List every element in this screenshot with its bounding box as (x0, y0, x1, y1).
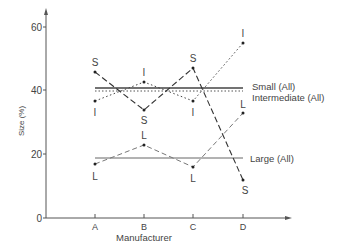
x-axis-label: Manufacturer (116, 232, 172, 243)
chart: 0 20 40 60 A B C D Manufacturer Size (%)… (0, 0, 345, 252)
svg-text:60: 60 (31, 22, 43, 33)
series-small (95, 68, 243, 180)
svg-text:L: L (141, 130, 147, 141)
svg-text:S: S (242, 185, 249, 196)
svg-text:Small (All): Small (All) (252, 81, 295, 92)
svg-text:20: 20 (31, 149, 43, 160)
svg-text:S: S (141, 115, 148, 126)
svg-text:C: C (190, 222, 197, 232)
svg-text:Intermediate (All): Intermediate (All) (252, 92, 324, 103)
svg-text:B: B (141, 222, 147, 232)
svg-text:I: I (143, 67, 146, 78)
svg-text:L: L (240, 99, 246, 110)
svg-text:S: S (190, 53, 197, 64)
markers (94, 42, 245, 182)
series-intermediate (95, 43, 243, 101)
svg-text:I: I (94, 107, 97, 118)
svg-text:L: L (92, 171, 98, 182)
svg-text:Large (All): Large (All) (250, 153, 294, 164)
svg-text:0: 0 (36, 213, 42, 224)
svg-text:A: A (92, 222, 98, 232)
y-tick-labels: 0 20 40 60 (31, 22, 43, 224)
svg-text:S: S (92, 57, 99, 68)
axes (46, 12, 288, 218)
x-tick-labels: A B C D (92, 222, 247, 232)
svg-text:I: I (242, 28, 245, 39)
y-axis-arrow (44, 8, 48, 15)
point-labels: S S S S I I I I L L L L (92, 28, 249, 196)
svg-text:D: D (240, 222, 247, 232)
svg-text:L: L (190, 173, 196, 184)
y-axis-label: Size (%) (17, 106, 26, 137)
svg-text:I: I (192, 107, 195, 118)
x-axis-arrow (285, 216, 292, 220)
series-large (95, 113, 243, 167)
svg-text:40: 40 (31, 85, 43, 96)
reference-labels: Small (All) Intermediate (All) Large (Al… (250, 81, 324, 164)
